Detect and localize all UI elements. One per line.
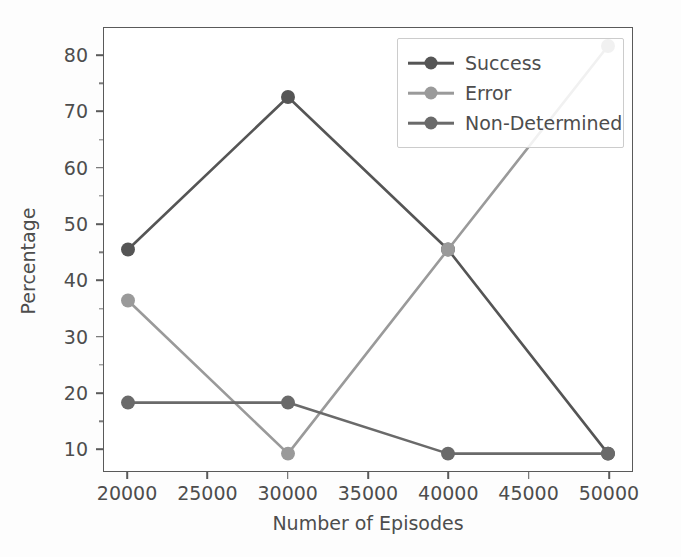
x-axis-label: Number of Episodes bbox=[103, 512, 633, 534]
y-tick-label: 30 bbox=[28, 326, 88, 348]
legend-label: Non-Determined bbox=[465, 112, 622, 134]
x-tick-label: 40000 bbox=[403, 482, 493, 504]
x-tick-mark bbox=[287, 472, 289, 479]
legend-swatch bbox=[408, 56, 454, 70]
chart-figure: Percentage 1020304050607080 200002500030… bbox=[0, 0, 681, 557]
data-point bbox=[281, 396, 295, 410]
data-point bbox=[121, 294, 135, 308]
data-point bbox=[281, 447, 295, 461]
y-tick-minor bbox=[99, 364, 103, 365]
legend-item[interactable]: Non-Determined bbox=[408, 108, 611, 138]
legend-marker-icon bbox=[425, 87, 438, 100]
y-tick-mark bbox=[96, 54, 103, 56]
series-line-non-determined bbox=[128, 403, 608, 454]
y-tick-minor bbox=[99, 421, 103, 422]
legend-item[interactable]: Error bbox=[408, 78, 611, 108]
x-tick-label: 20000 bbox=[82, 482, 172, 504]
x-tick-mark bbox=[207, 472, 209, 479]
data-point bbox=[121, 396, 135, 410]
legend-marker-icon bbox=[425, 117, 438, 130]
y-axis-label: Percentage bbox=[17, 171, 39, 351]
y-tick-mark bbox=[96, 111, 103, 113]
y-tick-label: 60 bbox=[28, 157, 88, 179]
legend-item[interactable]: Success bbox=[408, 48, 611, 78]
data-point bbox=[281, 90, 295, 104]
x-tick-label: 45000 bbox=[484, 482, 574, 504]
x-tick-label: 25000 bbox=[162, 482, 252, 504]
chart-legend: SuccessErrorNon-Determined bbox=[397, 38, 624, 148]
y-tick-label: 20 bbox=[28, 382, 88, 404]
series-line-success bbox=[128, 97, 608, 454]
data-point bbox=[441, 447, 455, 461]
legend-marker-icon bbox=[425, 57, 438, 70]
legend-label: Error bbox=[465, 82, 511, 104]
legend-swatch bbox=[408, 86, 454, 100]
data-point bbox=[441, 243, 455, 257]
y-tick-mark bbox=[96, 392, 103, 394]
data-point bbox=[121, 243, 135, 257]
x-tick-label: 50000 bbox=[564, 482, 654, 504]
x-tick-mark bbox=[126, 472, 128, 479]
y-tick-label: 10 bbox=[28, 438, 88, 460]
x-tick-label: 30000 bbox=[243, 482, 333, 504]
y-tick-mark bbox=[96, 449, 103, 451]
y-tick-mark bbox=[96, 223, 103, 225]
x-tick-mark bbox=[367, 472, 369, 479]
x-tick-mark bbox=[608, 472, 610, 479]
y-tick-mark bbox=[96, 280, 103, 282]
x-tick-label: 35000 bbox=[323, 482, 413, 504]
y-tick-label: 80 bbox=[28, 44, 88, 66]
y-tick-mark bbox=[96, 336, 103, 338]
y-tick-minor bbox=[99, 252, 103, 253]
x-tick-mark bbox=[448, 472, 450, 479]
x-tick-mark bbox=[528, 472, 530, 479]
y-tick-minor bbox=[99, 308, 103, 309]
y-tick-label: 40 bbox=[28, 269, 88, 291]
y-tick-mark bbox=[96, 167, 103, 169]
y-tick-label: 70 bbox=[28, 100, 88, 122]
y-tick-minor bbox=[99, 195, 103, 196]
data-point bbox=[601, 447, 615, 461]
y-tick-minor bbox=[99, 139, 103, 140]
legend-label: Success bbox=[465, 52, 541, 74]
y-tick-minor bbox=[99, 83, 103, 84]
legend-swatch bbox=[408, 116, 454, 130]
y-tick-label: 50 bbox=[28, 213, 88, 235]
